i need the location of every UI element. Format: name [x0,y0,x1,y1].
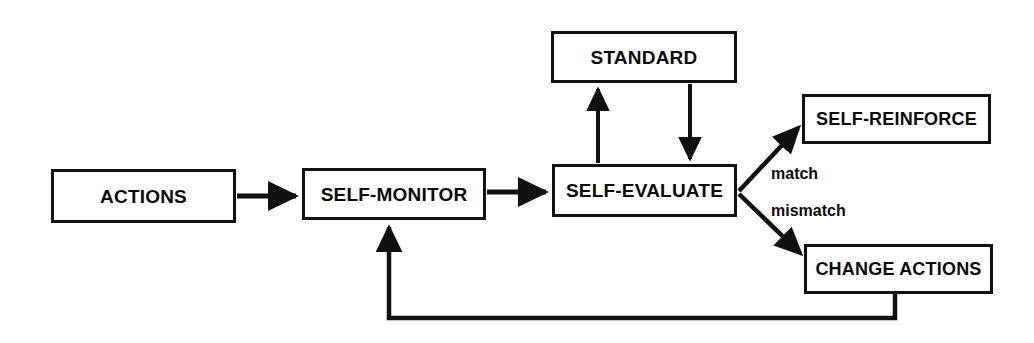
diagram-canvas: STANDARD ACTIONS SELF-MONITOR SELF-EVALU… [0,0,1034,343]
node-standard-label: STANDARD [591,48,698,67]
node-standard[interactable]: STANDARD [551,31,737,83]
node-change-actions-label: CHANGE ACTIONS [815,260,981,278]
node-change-actions[interactable]: CHANGE ACTIONS [804,244,993,294]
edge-label-match: match [771,166,818,182]
node-self-reinforce[interactable]: SELF-REINFORCE [802,94,991,144]
node-self-monitor[interactable]: SELF-MONITOR [302,168,486,220]
node-self-reinforce-label: SELF-REINFORCE [816,110,977,128]
edge-label-mismatch: mismatch [771,203,846,219]
node-self-evaluate[interactable]: SELF-EVALUATE [552,164,737,217]
node-actions[interactable]: ACTIONS [51,169,236,223]
node-self-evaluate-label: SELF-EVALUATE [566,181,723,200]
node-self-monitor-label: SELF-MONITOR [321,185,468,204]
node-actions-label: ACTIONS [100,187,187,206]
